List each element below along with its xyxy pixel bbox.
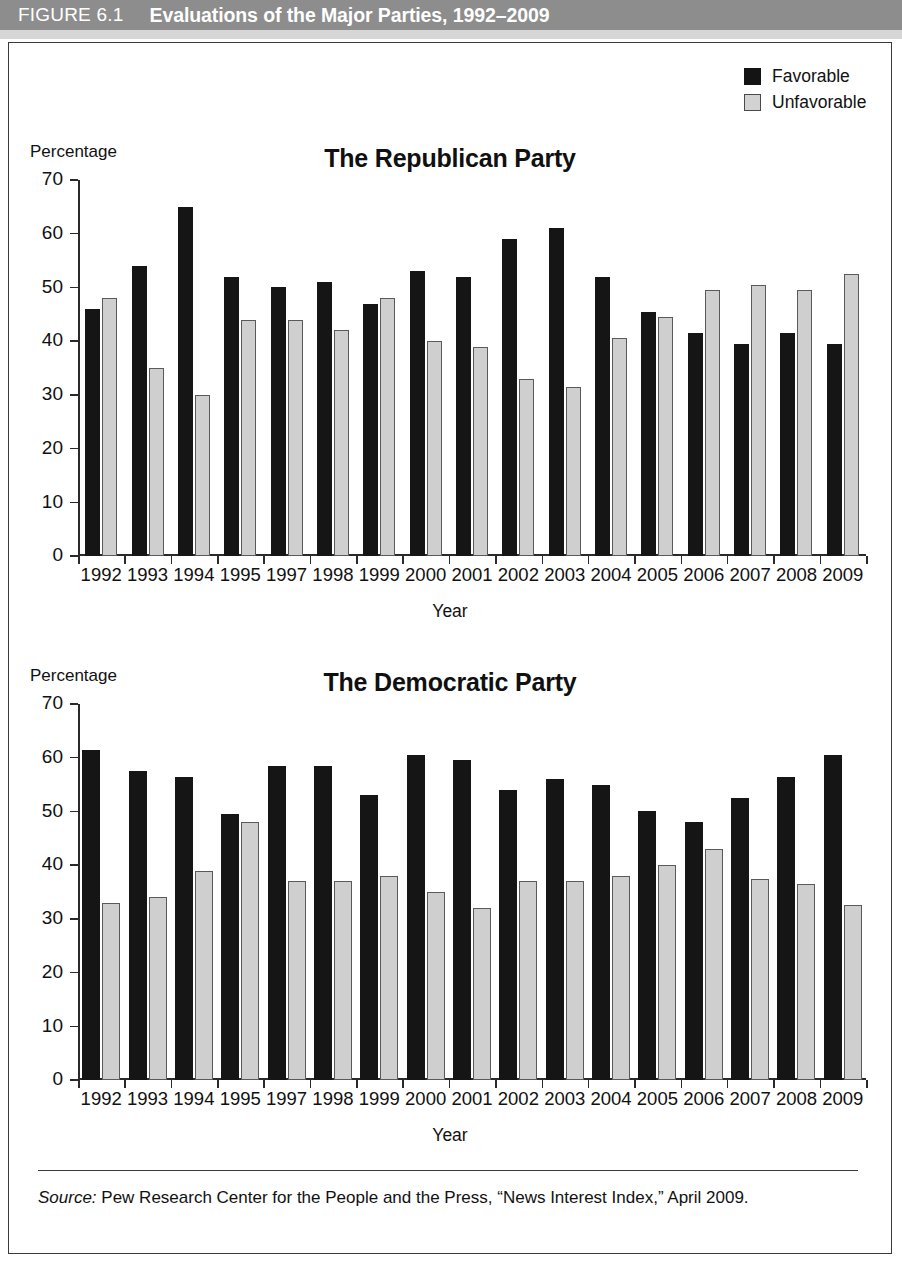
bar-democratic-2009-unfavorable (844, 905, 862, 1080)
bar-democratic-2004-unfavorable (612, 876, 630, 1080)
bar-democratic-1995-unfavorable (241, 822, 259, 1080)
x-axis-tick (820, 556, 822, 564)
x-axis-tick (542, 556, 544, 564)
bar-democratic-1997-unfavorable (288, 881, 306, 1080)
x-axis-label-1992: 1992 (81, 564, 122, 586)
y-axis-tick-label: 20 (42, 437, 63, 459)
source-label: Source: (38, 1188, 97, 1207)
x-axis-tick (124, 556, 126, 564)
bar-republican-1992-favorable (85, 309, 100, 556)
x-axis-label-2001: 2001 (451, 564, 492, 586)
x-axis-label-1997: 1997 (266, 1088, 307, 1110)
x-axis-tick (310, 1080, 312, 1088)
legend-label-favorable: Favorable (772, 66, 850, 87)
x-axis-label-2008: 2008 (776, 564, 817, 586)
bar-republican-2006-unfavorable (705, 290, 720, 556)
header-band-shadow (0, 30, 902, 39)
x-axis-label-2001: 2001 (451, 1088, 492, 1110)
x-axis-label-1999: 1999 (359, 1088, 400, 1110)
bar-democratic-1992-favorable (82, 750, 100, 1080)
x-axis-tick (634, 556, 636, 564)
bar-republican-1999-favorable (363, 304, 378, 556)
bar-democratic-2005-favorable (638, 811, 656, 1080)
bar-republican-1997-unfavorable (288, 320, 303, 556)
chart-title-democratic: The Democratic Party (8, 668, 892, 697)
legend-label-unfavorable: Unfavorable (772, 92, 866, 113)
x-axis-tick (78, 1080, 80, 1088)
y-axis-tick: 30 (70, 394, 78, 396)
y-axis-tick: 0 (70, 555, 78, 557)
x-axis-tick (588, 1080, 590, 1088)
bar-democratic-1992-unfavorable (102, 903, 120, 1080)
bars-layer-republican (78, 180, 866, 556)
y-axis-tick-label: 50 (42, 800, 63, 822)
bar-republican-1994-favorable (178, 207, 193, 556)
plot-area-democratic: 010203040506070 (78, 704, 866, 1080)
x-axis-label-2005: 2005 (637, 1088, 678, 1110)
x-axis-tick (773, 1080, 775, 1088)
x-axis-tick (402, 1080, 404, 1088)
bar-democratic-2001-unfavorable (473, 908, 491, 1080)
bar-democratic-2000-unfavorable (427, 892, 445, 1080)
x-axis-tick (588, 556, 590, 564)
x-axis-tick (727, 556, 729, 564)
x-axis-tick (866, 1080, 868, 1088)
bar-democratic-1999-unfavorable (380, 876, 398, 1080)
bar-republican-1997-favorable (271, 287, 286, 556)
x-axis-tick (495, 1080, 497, 1088)
bar-republican-2000-unfavorable (427, 341, 442, 556)
bar-democratic-2005-unfavorable (658, 865, 676, 1080)
x-axis-label-1994: 1994 (173, 1088, 214, 1110)
bar-democratic-1994-favorable (175, 777, 193, 1080)
x-axis-label-2004: 2004 (590, 564, 631, 586)
x-axis-tick (263, 556, 265, 564)
x-axis-label-2006: 2006 (683, 564, 724, 586)
bar-republican-2004-unfavorable (612, 338, 627, 556)
x-axis-tick (217, 556, 219, 564)
x-axis-label-2003: 2003 (544, 564, 585, 586)
source-note: Source: Pew Research Center for the Peop… (38, 1188, 868, 1208)
bar-democratic-1993-unfavorable (149, 897, 167, 1080)
y-axis-tick: 10 (70, 1026, 78, 1028)
y-axis-tick: 30 (70, 918, 78, 920)
bar-democratic-2003-favorable (546, 779, 564, 1080)
y-axis-tick: 10 (70, 502, 78, 504)
x-axis-tick (820, 1080, 822, 1088)
filled-square-icon (744, 68, 761, 85)
bar-republican-2007-favorable (734, 344, 749, 556)
bar-republican-1992-unfavorable (102, 298, 117, 556)
y-axis-tick-label: 10 (42, 491, 63, 513)
x-axis-label-2006: 2006 (683, 1088, 724, 1110)
outlined-square-icon (744, 94, 761, 111)
x-axis-label-2002: 2002 (498, 564, 539, 586)
bar-democratic-2008-unfavorable (797, 884, 815, 1080)
x-axis-label-2004: 2004 (590, 1088, 631, 1110)
bar-democratic-1998-unfavorable (334, 881, 352, 1080)
y-axis-tick-label: 20 (42, 961, 63, 983)
bar-republican-2007-unfavorable (751, 285, 766, 556)
chart-panel-democratic: Percentage The Democratic Party 01020304… (8, 652, 892, 1152)
y-axis-tick-label: 40 (42, 329, 63, 351)
x-axis-title-democratic: Year (8, 1125, 892, 1146)
x-axis-label-2005: 2005 (637, 564, 678, 586)
x-axis-label-1999: 1999 (359, 564, 400, 586)
legend-item-favorable: Favorable (744, 66, 894, 86)
x-axis-tick (681, 1080, 683, 1088)
x-axis-tick (402, 556, 404, 564)
y-axis-tick: 40 (70, 864, 78, 866)
x-axis-tick (449, 1080, 451, 1088)
chart-title-republican: The Republican Party (8, 144, 892, 173)
y-axis-tick: 40 (70, 340, 78, 342)
bar-democratic-1999-favorable (360, 795, 378, 1080)
bar-democratic-2000-favorable (407, 755, 425, 1080)
x-axis-label-2000: 2000 (405, 1088, 446, 1110)
bar-democratic-2002-unfavorable (519, 881, 537, 1080)
x-axis-label-2007: 2007 (730, 564, 771, 586)
bar-democratic-1997-favorable (268, 766, 286, 1080)
y-axis-tick-label: 70 (42, 168, 63, 190)
plot-area-republican: 010203040506070 (78, 180, 866, 556)
x-axis-tick (727, 1080, 729, 1088)
y-axis-tick-label: 30 (42, 383, 63, 405)
bar-republican-2005-unfavorable (658, 317, 673, 556)
x-axis-tick (356, 1080, 358, 1088)
